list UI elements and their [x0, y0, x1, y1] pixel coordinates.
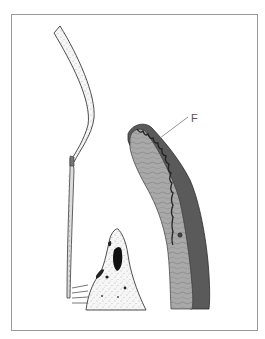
- label-F: F: [191, 112, 198, 124]
- illustration: F: [0, 0, 265, 339]
